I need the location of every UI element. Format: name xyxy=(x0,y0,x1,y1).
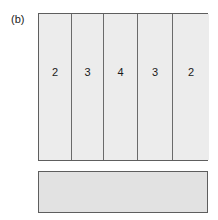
column-label: 2 xyxy=(188,67,194,78)
block-column: 4 xyxy=(104,14,138,160)
block-column: 2 xyxy=(173,14,209,160)
block-column: 3 xyxy=(72,14,104,160)
column-label: 3 xyxy=(84,67,90,78)
block-column: 3 xyxy=(138,14,173,160)
figure-panel-b: (b) 2 3 4 3 2 xyxy=(0,0,218,220)
sectioned-block: 2 3 4 3 2 xyxy=(38,13,208,161)
block-column: 2 xyxy=(39,14,72,160)
lower-solid-bar xyxy=(38,171,208,213)
column-label: 2 xyxy=(52,67,58,78)
panel-label: (b) xyxy=(11,13,24,26)
column-label: 3 xyxy=(152,67,158,78)
column-label: 4 xyxy=(117,67,123,78)
